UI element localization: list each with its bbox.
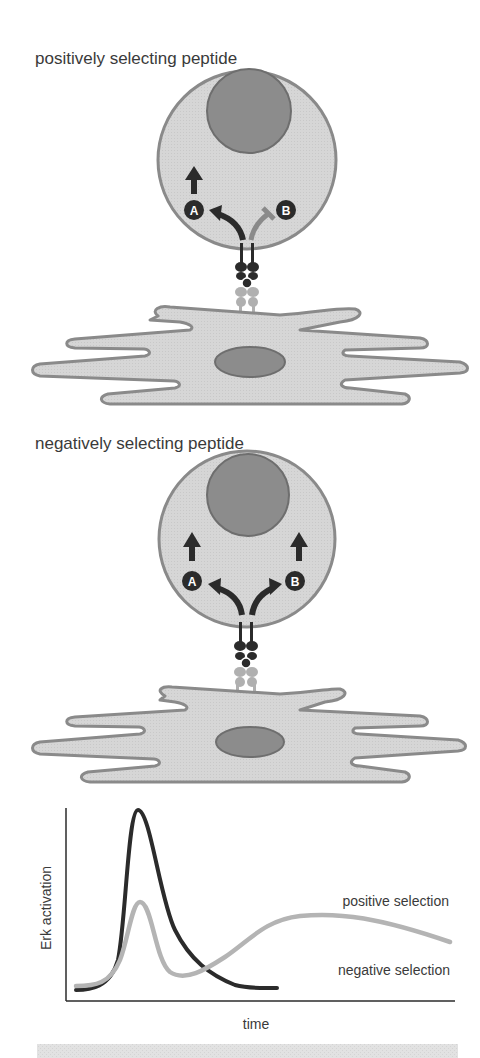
badge-a: A — [184, 200, 204, 220]
apc-nucleus — [215, 347, 285, 377]
apc-cell — [33, 687, 466, 782]
t-cell: A B — [159, 451, 335, 627]
panel-positive: positively selecting peptide A B — [33, 49, 468, 404]
apc-nucleus — [216, 727, 284, 757]
series-negative-selection — [76, 810, 277, 990]
figure-canvas: positively selecting peptide A B — [0, 0, 480, 1058]
badge-b: B — [276, 200, 296, 220]
y-axis-label: Erk activation — [38, 866, 54, 950]
footer-bar — [37, 1044, 458, 1058]
apc-cell — [33, 307, 468, 404]
svg-text:B: B — [291, 575, 300, 589]
svg-text:A: A — [190, 204, 199, 218]
t-cell-nucleus — [207, 454, 289, 536]
erk-chart: positive selection negative selection Er… — [38, 808, 455, 1032]
panel-title-positive: positively selecting peptide — [35, 49, 237, 68]
panel-negative: negatively selecting peptide A B — [33, 434, 466, 782]
t-cell: A B — [158, 69, 336, 249]
legend-positive-selection: positive selection — [342, 893, 449, 909]
x-axis-label: time — [243, 1016, 270, 1032]
legend-negative-selection: negative selection — [338, 962, 450, 978]
panel-title-negative: negatively selecting peptide — [35, 434, 244, 453]
t-cell-nucleus — [207, 69, 291, 153]
peptide — [241, 658, 251, 668]
badge-a: A — [182, 571, 202, 591]
svg-text:B: B — [282, 204, 291, 218]
badge-b: B — [285, 571, 305, 591]
svg-text:A: A — [188, 575, 197, 589]
peptide — [242, 278, 252, 288]
receptor-complex — [235, 243, 259, 322]
